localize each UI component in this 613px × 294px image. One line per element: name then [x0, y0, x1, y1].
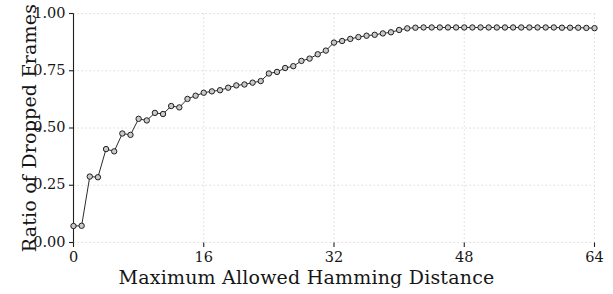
- y-tick-label: 0.25: [20, 176, 66, 192]
- x-axis-label: Maximum Allowed Hamming Distance: [0, 266, 613, 288]
- y-tick-label: 1.00: [20, 5, 66, 21]
- x-tick-label: 0: [54, 249, 94, 265]
- x-tick-label: 16: [184, 249, 224, 265]
- chart-figure: Ratio of Dropped Frames Maximum Allowed …: [0, 0, 613, 294]
- x-tick-label: 48: [444, 249, 484, 265]
- axis-ticks: [69, 14, 595, 248]
- x-tick-label: 64: [575, 249, 613, 265]
- y-tick-label: 0.50: [20, 119, 66, 135]
- y-tick-label: 0.00: [20, 234, 66, 250]
- y-tick-label: 0.75: [20, 62, 66, 78]
- x-tick-label: 32: [314, 249, 354, 265]
- gridlines: [74, 14, 595, 243]
